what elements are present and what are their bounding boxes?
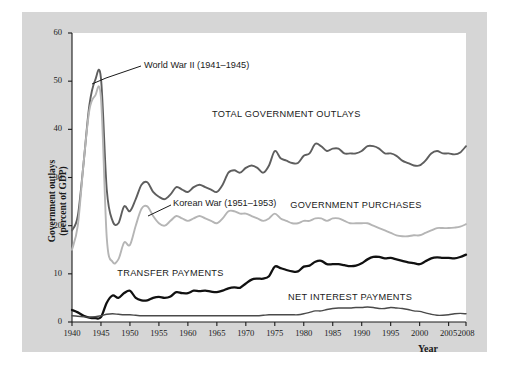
data-series-group xyxy=(72,70,466,319)
x-tick-label: 2000 xyxy=(405,328,435,338)
x-tick-label: 2008 xyxy=(451,328,481,338)
x-tick-label: 1965 xyxy=(202,328,232,338)
x-tick-label: 1980 xyxy=(289,328,319,338)
y-tick-marks xyxy=(68,33,72,322)
y-tick-label: 10 xyxy=(40,268,62,278)
series-label-2: TRANSFER PAYMENTS xyxy=(117,268,223,278)
x-tick-label: 1970 xyxy=(231,328,261,338)
y-tick-label: 20 xyxy=(40,220,62,230)
y-tick-label: 30 xyxy=(40,172,62,182)
korean-war-leader-line xyxy=(148,205,171,216)
y-tick-label: 40 xyxy=(40,123,62,133)
x-tick-label: 1985 xyxy=(318,328,348,338)
x-tick-label: 1955 xyxy=(144,328,174,338)
y-tick-label: 0 xyxy=(40,316,62,326)
x-tick-label: 1975 xyxy=(260,328,290,338)
annotation-korean-war: Korean War (1951–1953) xyxy=(173,198,276,208)
x-tick-label: 1990 xyxy=(347,328,377,338)
x-tick-label: 1940 xyxy=(57,328,87,338)
series-label-3: NET INTEREST PAYMENTS xyxy=(288,292,412,302)
y-tick-label: 60 xyxy=(40,27,62,37)
figure-container: Government outlays (percent of GDP) Year… xyxy=(0,0,509,377)
x-tick-label: 1950 xyxy=(115,328,145,338)
series-line-3 xyxy=(72,307,466,317)
ww2-leader-line xyxy=(92,66,141,84)
y-tick-label: 50 xyxy=(40,75,62,85)
series-label-1: GOVERNMENT PURCHASES xyxy=(290,200,421,210)
x-tick-label: 1945 xyxy=(86,328,116,338)
annotation-world-war-2: World War II (1941–1945) xyxy=(144,60,249,70)
axes-group xyxy=(72,33,466,322)
series-label-0: TOTAL GOVERNMENT OUTLAYS xyxy=(212,109,361,119)
x-tick-label: 1995 xyxy=(376,328,406,338)
x-tick-marks xyxy=(72,322,466,326)
chart-svg xyxy=(0,0,509,377)
x-tick-label: 1960 xyxy=(173,328,203,338)
